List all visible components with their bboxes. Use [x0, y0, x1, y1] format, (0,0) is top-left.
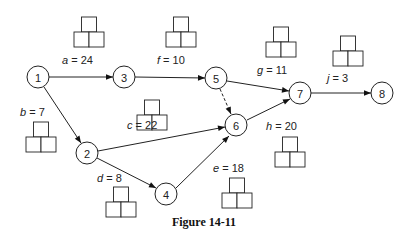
time-box-h	[275, 137, 305, 167]
time-box-b	[26, 122, 56, 152]
activity-label-h: h = 20	[266, 120, 297, 132]
activity-label-e: e = 18	[213, 162, 244, 174]
svg-text:6: 6	[233, 120, 239, 132]
svg-text:2: 2	[84, 148, 90, 160]
arrow-1-2	[44, 87, 81, 143]
time-box-e	[222, 178, 252, 208]
activity-label-d: d = 8	[97, 172, 122, 184]
activity-label-j: j = 3	[325, 72, 348, 84]
node-3: 3	[113, 66, 135, 88]
svg-text:8: 8	[379, 88, 385, 100]
svg-text:3: 3	[121, 72, 127, 84]
node-8: 8	[371, 82, 393, 104]
svg-text:7: 7	[297, 88, 303, 100]
node-4: 4	[155, 183, 177, 205]
arrow-5-7	[227, 81, 289, 91]
activity-label-f: f = 10	[157, 54, 185, 66]
arrow-2-6	[98, 127, 225, 151]
activity-label-c: c = 22	[127, 119, 157, 131]
network-diagram: a = 24b = 7c = 22d = 8e = 18f = 10g = 11…	[0, 0, 409, 233]
arrow-3-5	[135, 77, 205, 78]
svg-text:5: 5	[213, 73, 219, 85]
time-box-a	[74, 17, 104, 47]
node-6: 6	[225, 114, 247, 136]
svg-text:4: 4	[163, 189, 169, 201]
figure-caption: Figure 14-11	[172, 215, 236, 229]
node-2: 2	[76, 142, 98, 164]
activity-label-a: a = 24	[62, 54, 93, 66]
node-1: 1	[27, 66, 49, 88]
activity-boxes	[26, 17, 363, 217]
nodes: 12345678	[27, 66, 393, 205]
svg-text:1: 1	[35, 72, 41, 84]
arrow-6-7	[247, 99, 290, 120]
edges	[44, 77, 371, 188]
time-box-g	[266, 27, 296, 57]
node-5: 5	[205, 67, 227, 89]
time-box-d	[106, 187, 136, 217]
activity-label-b: b = 7	[20, 106, 45, 118]
activity-label-g: g = 11	[257, 64, 287, 76]
node-7: 7	[289, 82, 311, 104]
time-box-f	[166, 17, 196, 47]
time-box-j	[333, 36, 363, 66]
dummy-arrow-5-6	[220, 89, 231, 114]
